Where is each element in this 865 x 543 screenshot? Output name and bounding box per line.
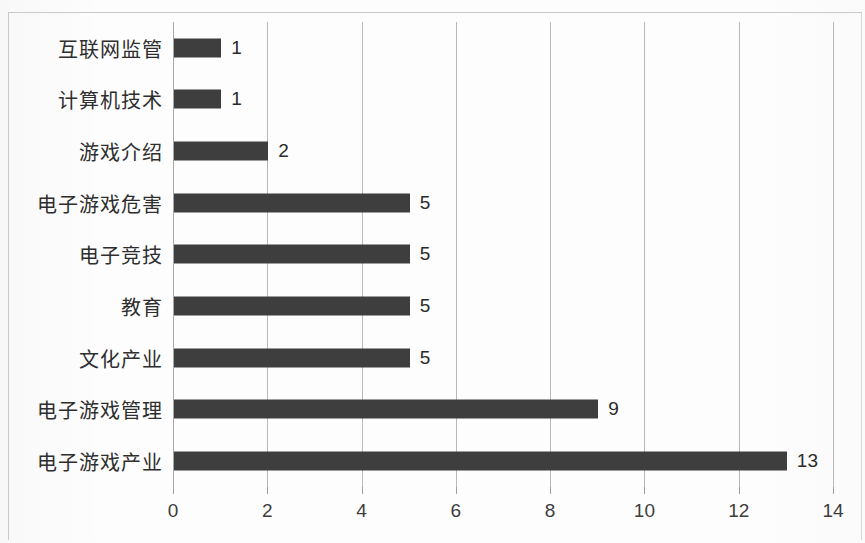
- category-label: 文化产业: [79, 343, 163, 372]
- bar-row: 电子游戏产业13: [173, 435, 833, 487]
- x-axis-tick: [173, 487, 174, 494]
- x-axis-tick-label: 8: [545, 500, 556, 522]
- plot-area: 02468101214 互联网监管1计算机技术1游戏介绍2电子游戏危害5电子竞技…: [173, 22, 833, 487]
- bar: [174, 90, 221, 109]
- bar-row: 文化产业5: [173, 332, 833, 384]
- bar: [174, 142, 268, 161]
- bar-value-label: 13: [797, 450, 818, 472]
- category-label: 电子游戏产业: [37, 447, 163, 476]
- category-label: 电子竞技: [79, 240, 163, 269]
- category-label: 教育: [121, 292, 163, 321]
- category-label: 电子游戏危害: [37, 188, 163, 217]
- bar: [174, 193, 410, 212]
- category-label: 游戏介绍: [79, 137, 163, 166]
- bar-row: 互联网监管1: [173, 22, 833, 74]
- bar: [174, 38, 221, 57]
- bar: [174, 297, 410, 316]
- bar: [174, 400, 598, 419]
- x-axis-tick-label: 0: [168, 500, 179, 522]
- bar-row: 电子游戏管理9: [173, 384, 833, 436]
- bar-row: 电子竞技5: [173, 229, 833, 281]
- bar-chart-figure: 02468101214 互联网监管1计算机技术1游戏介绍2电子游戏危害5电子竞技…: [0, 0, 865, 543]
- bar-value-label: 5: [420, 295, 431, 317]
- category-label: 电子游戏管理: [37, 395, 163, 424]
- bar-row: 教育5: [173, 280, 833, 332]
- bar-row: 计算机技术1: [173, 74, 833, 126]
- bar-value-label: 2: [278, 140, 289, 162]
- bar-row: 电子游戏危害5: [173, 177, 833, 229]
- x-axis-tick: [739, 487, 740, 494]
- x-axis-tick-label: 12: [728, 500, 749, 522]
- bar-value-label: 9: [608, 398, 619, 420]
- x-axis-tick-label: 14: [822, 500, 843, 522]
- x-axis-tick: [267, 487, 268, 494]
- x-axis-tick-label: 6: [451, 500, 462, 522]
- x-axis-tick-label: 4: [356, 500, 367, 522]
- category-label: 计算机技术: [58, 85, 163, 114]
- bar: [174, 348, 410, 367]
- bar-value-label: 5: [420, 192, 431, 214]
- x-axis-tick-label: 2: [262, 500, 273, 522]
- x-axis-tick: [833, 487, 834, 494]
- x-axis-tick: [644, 487, 645, 494]
- x-axis-tick: [550, 487, 551, 494]
- bar: [174, 452, 787, 471]
- x-axis-tick: [362, 487, 363, 494]
- x-axis-tick: [456, 487, 457, 494]
- bar: [174, 245, 410, 264]
- x-axis-tick-label: 10: [634, 500, 655, 522]
- bar-value-label: 1: [231, 88, 242, 110]
- bar-value-label: 5: [420, 243, 431, 265]
- bar-value-label: 5: [420, 347, 431, 369]
- bar-value-label: 1: [231, 37, 242, 59]
- bar-row: 游戏介绍2: [173, 125, 833, 177]
- gridline: [833, 22, 834, 487]
- category-label: 互联网监管: [58, 33, 163, 62]
